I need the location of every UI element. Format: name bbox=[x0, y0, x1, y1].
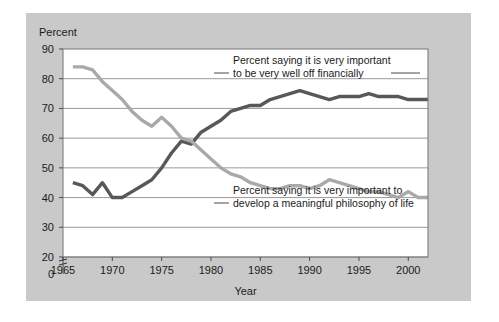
philosophy-of-life-label-line2: develop a meaningful philosophy of life bbox=[233, 197, 414, 209]
plot-wrapper: 2030405060708090 19651970197519801985199… bbox=[0, 0, 499, 322]
x-tick-label: 1980 bbox=[199, 264, 223, 276]
y-tick-label: 70 bbox=[42, 102, 54, 114]
financially-well-off-label-line1: Percent saying it is very important bbox=[233, 54, 391, 66]
x-tick-label: 1995 bbox=[347, 264, 371, 276]
x-tick-label: 1985 bbox=[248, 264, 272, 276]
y-axis-title: Percent bbox=[39, 26, 77, 38]
y-tick-label: 30 bbox=[42, 221, 54, 233]
y-tick-label: 80 bbox=[42, 73, 54, 85]
y-zero-label: 0 bbox=[48, 268, 54, 280]
x-axis-title: Year bbox=[234, 285, 257, 297]
y-tick-label: 40 bbox=[42, 192, 54, 204]
x-tick-label: 1975 bbox=[149, 264, 173, 276]
line-chart: 2030405060708090 19651970197519801985199… bbox=[0, 0, 499, 322]
y-tick-label: 90 bbox=[42, 43, 54, 55]
y-tick-label: 60 bbox=[42, 132, 54, 144]
x-tick-label: 1970 bbox=[100, 264, 124, 276]
y-tick-label: 20 bbox=[42, 251, 54, 263]
figure: 2030405060708090 19651970197519801985199… bbox=[0, 0, 499, 322]
x-tick-label: 1990 bbox=[297, 264, 321, 276]
x-tick-label: 2000 bbox=[396, 264, 420, 276]
plot-background bbox=[63, 49, 428, 257]
x-axis-ticks: 19651970197519801985199019952000 bbox=[51, 257, 421, 276]
financially-well-off-label-line2: to be very well off financially bbox=[233, 67, 364, 79]
y-tick-label: 50 bbox=[42, 162, 54, 174]
y-axis-ticks: 2030405060708090 bbox=[42, 43, 63, 263]
philosophy-of-life-label-line1: Percent saying it is very important to bbox=[233, 184, 402, 196]
